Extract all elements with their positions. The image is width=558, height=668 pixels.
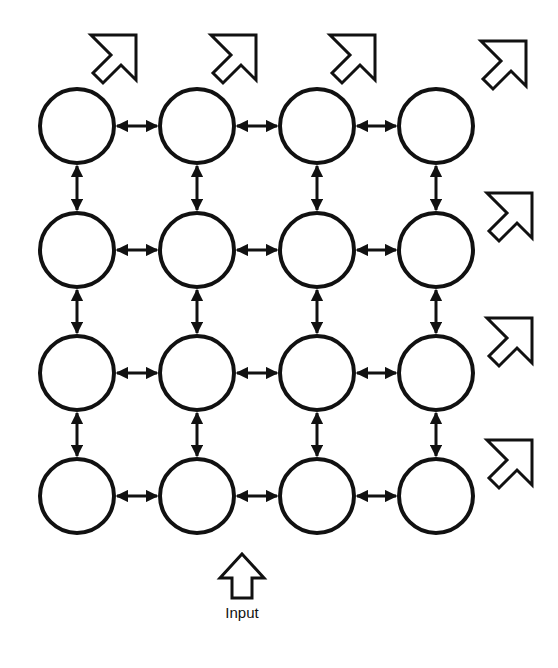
processor-node xyxy=(399,213,473,287)
output-arrow-icon xyxy=(330,35,375,83)
output-arrow-icon xyxy=(211,35,256,83)
output-arrow-icon xyxy=(487,440,532,488)
processor-node xyxy=(160,89,234,163)
processor-node xyxy=(399,89,473,163)
processor-node xyxy=(40,459,114,533)
input-arrow-icon xyxy=(220,554,264,598)
output-arrow-icon xyxy=(487,193,532,241)
connections-layer xyxy=(77,126,436,496)
processor-node xyxy=(280,213,354,287)
processor-node xyxy=(160,459,234,533)
nodes-layer xyxy=(40,89,473,533)
processor-node xyxy=(40,336,114,410)
mesh-diagram xyxy=(0,0,558,668)
input-arrow-layer xyxy=(220,554,264,598)
processor-node xyxy=(399,459,473,533)
processor-node xyxy=(399,336,473,410)
processor-node xyxy=(280,336,354,410)
output-arrow-icon xyxy=(481,41,526,89)
processor-node xyxy=(160,336,234,410)
processor-node xyxy=(280,459,354,533)
processor-node xyxy=(280,89,354,163)
input-label: Input xyxy=(202,604,282,621)
processor-node xyxy=(160,213,234,287)
processor-node xyxy=(40,213,114,287)
output-arrow-icon xyxy=(91,35,136,83)
output-arrow-icon xyxy=(487,318,532,366)
processor-node xyxy=(40,89,114,163)
